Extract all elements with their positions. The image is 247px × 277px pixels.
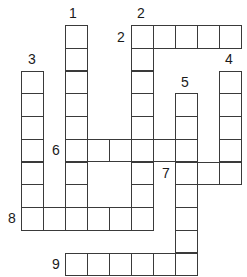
crossword-cell[interactable] — [131, 162, 154, 186]
crossword-cell[interactable] — [87, 139, 110, 163]
crossword-cell[interactable] — [175, 207, 198, 231]
crossword-cell[interactable] — [65, 139, 88, 163]
crossword-cell[interactable] — [21, 139, 44, 163]
crossword-cell[interactable] — [131, 184, 154, 208]
crossword-cell[interactable] — [131, 93, 154, 117]
crossword-cell[interactable] — [131, 253, 154, 277]
crossword-cell[interactable] — [175, 116, 198, 140]
crossword-cell[interactable] — [65, 48, 88, 72]
crossword-cell[interactable] — [131, 48, 154, 72]
crossword-cell[interactable] — [87, 207, 110, 231]
crossword-cell[interactable] — [219, 116, 242, 140]
crossword-cell[interactable] — [131, 207, 154, 231]
clue-number-label: 9 — [52, 257, 60, 271]
crossword-cell[interactable] — [65, 93, 88, 117]
crossword-cell[interactable] — [175, 230, 198, 254]
clue-number-label: 5 — [181, 75, 189, 89]
crossword-cell[interactable] — [219, 139, 242, 163]
crossword-cell[interactable] — [153, 25, 176, 49]
crossword-cell[interactable] — [65, 71, 88, 95]
crossword-cell[interactable] — [21, 184, 44, 208]
crossword-cell[interactable] — [21, 116, 44, 140]
crossword-cell[interactable] — [153, 139, 176, 163]
crossword-cell[interactable] — [109, 139, 132, 163]
clue-number-label: 1 — [69, 6, 77, 20]
crossword-cell[interactable] — [109, 207, 132, 231]
crossword-cell[interactable] — [21, 71, 44, 95]
crossword-cell[interactable] — [175, 162, 198, 186]
clue-number-label: 3 — [28, 52, 36, 66]
crossword-cell[interactable] — [131, 139, 154, 163]
crossword-cell[interactable] — [175, 253, 198, 277]
clue-number-label: 7 — [162, 166, 170, 180]
crossword-grid: 1223456789 — [0, 0, 247, 277]
crossword-cell[interactable] — [43, 207, 66, 231]
crossword-cell[interactable] — [197, 162, 220, 186]
crossword-cell[interactable] — [65, 207, 88, 231]
crossword-cell[interactable] — [131, 25, 154, 49]
crossword-cell[interactable] — [197, 25, 220, 49]
crossword-cell[interactable] — [65, 184, 88, 208]
crossword-cell[interactable] — [65, 116, 88, 140]
crossword-cell[interactable] — [175, 25, 198, 49]
crossword-cell[interactable] — [65, 25, 88, 49]
clue-number-label: 6 — [52, 143, 60, 157]
crossword-cell[interactable] — [175, 93, 198, 117]
crossword-cell[interactable] — [175, 184, 198, 208]
crossword-cell[interactable] — [65, 162, 88, 186]
crossword-cell[interactable] — [219, 162, 242, 186]
crossword-cell[interactable] — [175, 139, 198, 163]
crossword-cell[interactable] — [109, 253, 132, 277]
clue-number-label: 2 — [117, 30, 125, 44]
crossword-cell[interactable] — [131, 116, 154, 140]
clue-number-label: 2 — [137, 6, 145, 20]
crossword-cell[interactable] — [219, 93, 242, 117]
crossword-cell[interactable] — [131, 71, 154, 95]
crossword-cell[interactable] — [153, 253, 176, 277]
crossword-cell[interactable] — [65, 253, 88, 277]
crossword-cell[interactable] — [21, 207, 44, 231]
crossword-cell[interactable] — [21, 162, 44, 186]
crossword-cell[interactable] — [21, 93, 44, 117]
crossword-cell[interactable] — [87, 253, 110, 277]
crossword-cell[interactable] — [219, 71, 242, 95]
clue-number-label: 4 — [225, 52, 233, 66]
crossword-cell[interactable] — [219, 25, 242, 49]
clue-number-label: 8 — [8, 211, 16, 225]
